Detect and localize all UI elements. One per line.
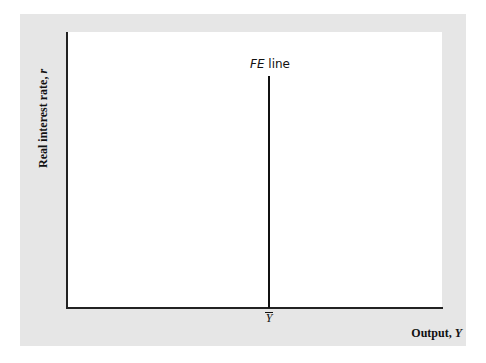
fe-line-label: FE line — [245, 57, 295, 71]
x-tick-label: Y — [266, 311, 273, 325]
x-tick-ybar: Y — [262, 311, 276, 326]
y-axis-label-text: Real interest rate, — [36, 74, 50, 168]
x-axis — [66, 307, 443, 309]
y-axis — [66, 32, 68, 309]
x-axis-label: Output, Y — [411, 326, 462, 341]
overbar — [265, 312, 273, 313]
x-axis-label-text: Output, — [411, 326, 454, 340]
fe-line — [268, 76, 270, 308]
x-axis-label-var: Y — [455, 326, 462, 340]
fe-label-italic: FE — [250, 57, 264, 71]
y-axis-label-var: r — [36, 69, 50, 74]
plot-area — [67, 32, 442, 308]
fe-label-rest: line — [265, 57, 290, 71]
y-axis-label: Real interest rate, r — [36, 69, 51, 168]
